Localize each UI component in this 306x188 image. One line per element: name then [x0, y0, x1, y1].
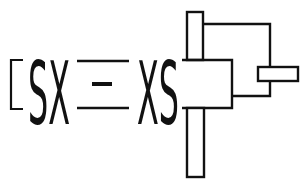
equals-symbol — [77, 61, 129, 108]
top-prong — [187, 12, 203, 60]
right-term-text: XS — [137, 42, 179, 145]
lower-connector — [232, 81, 270, 96]
left-term-text: SX — [28, 42, 70, 145]
center-box — [182, 60, 232, 108]
bottom-prong — [187, 108, 204, 177]
left-bracket — [11, 60, 23, 109]
side-tab — [258, 67, 298, 81]
plug-shape — [182, 12, 298, 177]
logo-diagram: SX XS — [0, 0, 306, 188]
